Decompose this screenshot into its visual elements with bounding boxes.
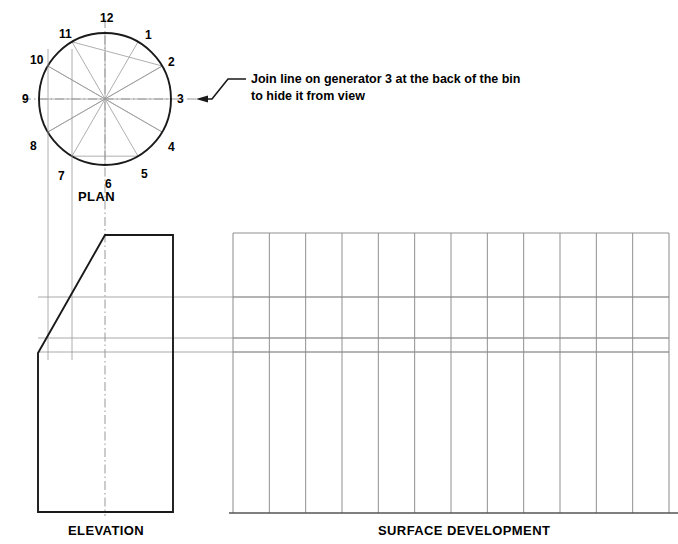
elevation-view-group — [38, 49, 669, 512]
plan-generator-label-7: 7 — [58, 170, 65, 182]
plan-view-group — [22, 19, 201, 516]
plan-generator-label-4: 4 — [168, 141, 175, 153]
plan-generator-label-12: 12 — [100, 12, 113, 24]
plan-generator-line-1 — [105, 42, 138, 99]
surface-development-title: SURFACE DEVELOPMENT — [378, 524, 550, 537]
plan-generator-label-8: 8 — [30, 140, 37, 152]
plan-generator-line-5 — [105, 99, 138, 156]
plan-generator-label-5: 5 — [141, 168, 148, 180]
annotation-line-1: Join line on generator 3 at the back of … — [251, 72, 520, 88]
elevation-title: ELEVATION — [68, 524, 144, 537]
annotation-leader-line — [205, 79, 246, 99]
annotation-arrow-head-icon — [196, 95, 208, 102]
plan-generator-label-11: 11 — [59, 28, 72, 40]
plan-generator-label-2: 2 — [168, 56, 175, 68]
plan-chord-1 — [72, 42, 162, 66]
plan-generator-label-1: 1 — [145, 29, 152, 41]
plan-generator-label-9: 9 — [22, 93, 29, 105]
technical-drawing-canvas: 121234567891011 PLAN ELEVATION SURFACE D… — [0, 0, 678, 544]
plan-generator-label-10: 10 — [30, 54, 43, 66]
plan-generator-line-7 — [72, 99, 105, 156]
annotation-line-2: to hide it from view — [251, 89, 365, 105]
annotation-leader-group — [196, 79, 246, 103]
plan-generator-label-3: 3 — [177, 93, 184, 105]
plan-title: PLAN — [78, 190, 115, 203]
plan-generator-line-11 — [72, 42, 105, 99]
surface-development-group — [229, 233, 678, 513]
elevation-outline — [38, 235, 173, 512]
